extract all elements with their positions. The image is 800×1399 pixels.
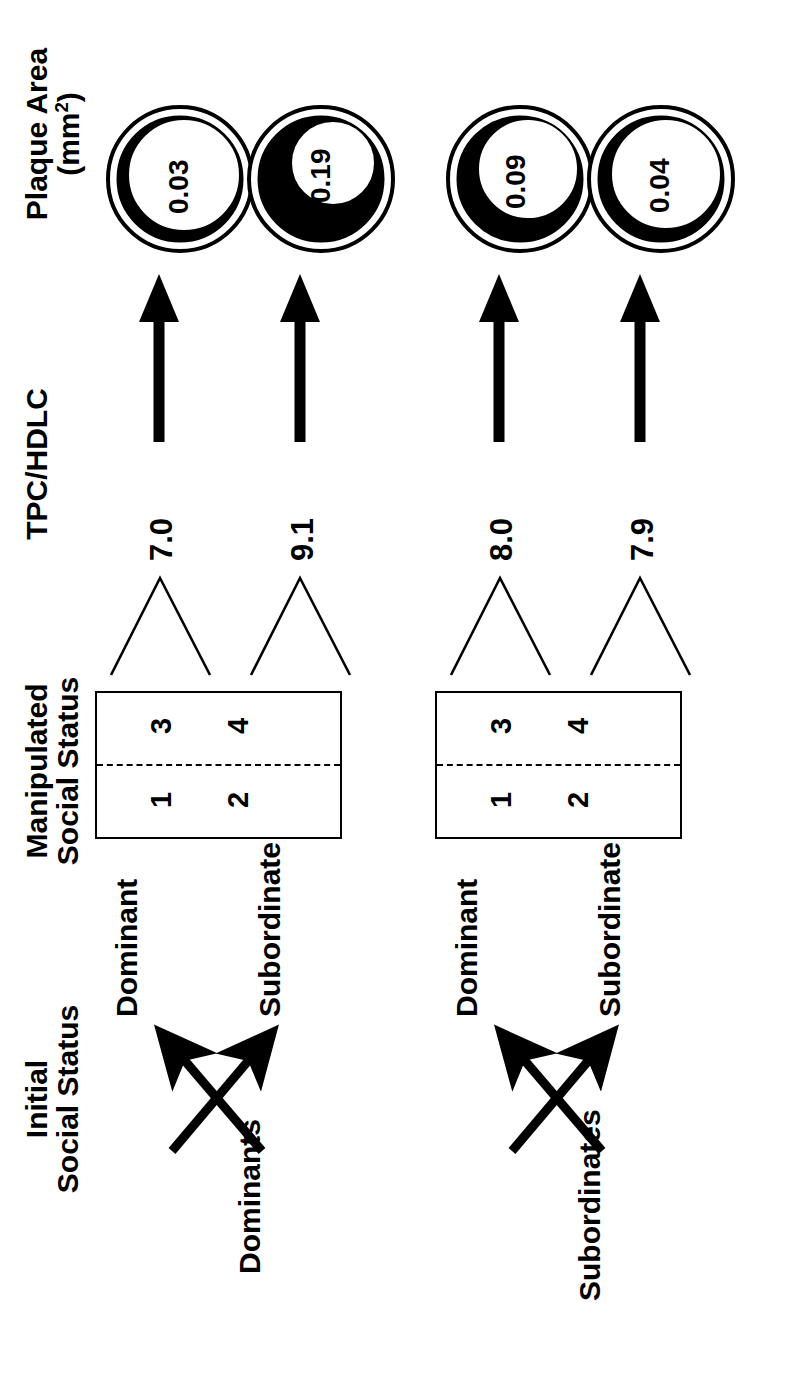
box-number-1: 1	[485, 763, 518, 837]
box-number-3: 3	[145, 689, 178, 763]
tpc-hdlc-value-subordinates-subordinate: 7.9	[625, 518, 661, 561]
header-plaque-unit-open: (mm	[52, 113, 85, 176]
manipulated-status-box-dominants: 1 2 3 4	[95, 691, 342, 839]
tpc-hdlc-value-dominants-dominant: 7.0	[144, 518, 180, 561]
box-number-2: 2	[562, 763, 595, 837]
box-divider-dashed	[97, 764, 340, 766]
branch-arrows-group-dominants	[140, 999, 290, 1169]
header-manipulated-line2: Social Status	[53, 621, 84, 921]
plaque-area-value-dominants-subordinate: 0.19	[305, 149, 337, 204]
arrow-to-plaque-dominants-subordinate	[277, 269, 323, 444]
figure-rotated-canvas: Initial Social Status Manipulated Social…	[0, 0, 800, 1399]
arrow-to-plaque-subordinates-subordinate	[617, 269, 663, 444]
tpc-hdlc-value-subordinates-dominant: 8.0	[484, 518, 520, 561]
tpc-hdlc-value-dominants-subordinate: 9.1	[285, 518, 321, 561]
header-initial-social-status: Initial Social Status	[22, 949, 83, 1249]
arrow-to-plaque-dominants-dominant	[136, 269, 182, 444]
branch-arrows-group-subordinates	[480, 999, 630, 1169]
header-plaque-unit-superscript: 2	[51, 102, 72, 112]
branch-label-subordinates-dominant: Dominant	[450, 879, 484, 1017]
header-plaque-line1: Plaque Area	[20, 48, 53, 220]
connector-lambda-dominants-dominant	[108, 575, 213, 677]
branch-label-dominants-subordinate: Subordinate	[253, 842, 287, 1017]
header-tpc-hdlc: TPC/HDLC	[22, 344, 53, 584]
box-number-4: 4	[222, 689, 255, 763]
header-plaque-area: Plaque Area (mm2)	[22, 4, 84, 264]
manipulated-status-box-subordinates: 1 2 3 4	[435, 691, 682, 839]
arrow-to-plaque-subordinates-dominant	[476, 269, 522, 444]
plaque-area-value-dominants-dominant: 0.03	[163, 160, 195, 215]
figure-stage: Initial Social Status Manipulated Social…	[0, 0, 800, 1399]
branch-label-dominants-dominant: Dominant	[110, 879, 144, 1017]
branch-label-subordinates-subordinate: Subordinate	[593, 842, 627, 1017]
connector-lambda-subordinates-dominant	[448, 575, 553, 677]
box-number-1: 1	[145, 763, 178, 837]
header-initial-line2: Social Status	[53, 949, 84, 1249]
plaque-area-value-subordinates-subordinate: 0.04	[644, 159, 676, 214]
header-manipulated-social-status: Manipulated Social Status	[22, 621, 83, 921]
header-plaque-unit-close: )	[52, 92, 85, 102]
box-number-4: 4	[562, 689, 595, 763]
box-divider-dashed	[437, 764, 680, 766]
connector-lambda-dominants-subordinate	[248, 575, 353, 677]
box-number-3: 3	[485, 689, 518, 763]
connector-lambda-subordinates-subordinate	[588, 575, 693, 677]
plaque-area-value-subordinates-dominant: 0.09	[500, 155, 532, 210]
header-plaque-line2: (mm2)	[53, 4, 85, 264]
header-initial-line1: Initial	[20, 1060, 53, 1138]
header-manipulated-line1: Manipulated	[20, 684, 53, 859]
header-tpc-label: TPC/HDLC	[20, 388, 53, 540]
box-number-2: 2	[222, 763, 255, 837]
